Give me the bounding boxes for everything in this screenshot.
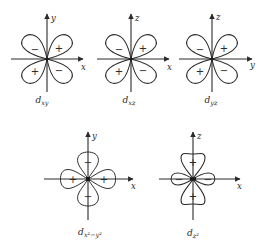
vertical-axis-label: y — [50, 13, 56, 23]
sign-right: + — [100, 174, 108, 185]
orbital-label: dz² — [187, 228, 199, 240]
horizontal-axis-label: x — [167, 62, 172, 72]
sign-upper-right: + — [55, 43, 63, 54]
d-orbitals-diagram: − + + − y x dxy − + + − z x dxz — [0, 0, 267, 243]
sign-lower-left: + — [31, 66, 39, 77]
sign-lower-right: − — [139, 65, 147, 76]
sign-left: + — [69, 174, 77, 185]
sign-bottom: + — [189, 191, 197, 202]
sign-lower-left: + — [196, 66, 204, 77]
sign-upper-left: − — [115, 44, 123, 55]
orbital-label: dxy — [35, 95, 48, 107]
sign-upper-right: + — [220, 43, 228, 54]
sign-upper-left: − — [196, 44, 204, 55]
sign-lower-right: − — [220, 65, 228, 76]
vertical-axis-label: z — [196, 131, 202, 141]
sign-lower-right: − — [55, 65, 63, 76]
horizontal-axis-label: x — [81, 62, 86, 72]
sign-left: − — [175, 174, 183, 185]
orbital-dyz: − + + − z y dyz — [179, 12, 255, 107]
orbital-label: dx²−y² — [78, 227, 102, 239]
sign-upper-left: − — [31, 44, 39, 55]
sign-right: − — [204, 174, 212, 185]
sign-upper-right: + — [139, 43, 147, 54]
horizontal-axis-label: x — [237, 181, 242, 191]
vertical-axis-label: y — [91, 131, 97, 141]
vertical-axis-label: z — [134, 13, 140, 23]
sign-top: − — [84, 157, 92, 168]
orbital-label: dxz — [123, 95, 136, 107]
orbital-label: dyz — [205, 95, 218, 107]
vertical-axis-label: z — [215, 12, 221, 22]
sign-lower-left: + — [115, 66, 123, 77]
orbital-dxy: − + + − y x dxy — [11, 13, 86, 107]
orbital-dx2-y2: − − + + y x dx²−y² — [44, 131, 136, 239]
sign-bottom: − — [84, 191, 92, 202]
horizontal-axis-label: y — [249, 60, 255, 70]
horizontal-axis-label: x — [131, 181, 136, 191]
orbital-dxz: − + + − z x dxz — [97, 13, 172, 107]
sign-top: + — [189, 157, 197, 168]
orbital-dz2: + + − − z x dz² — [159, 131, 242, 240]
